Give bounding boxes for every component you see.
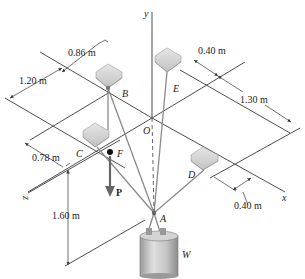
cable-AC: [97, 147, 154, 213]
point-C-label: C: [76, 148, 83, 159]
point-A-label: A: [159, 213, 167, 224]
point-B-label: B: [122, 88, 128, 99]
cable-AB: [108, 88, 154, 213]
point-F-dot: [107, 149, 113, 155]
floor-reference-line: [65, 220, 145, 266]
cable-AE: [154, 72, 167, 213]
line-C-parallel-z: [28, 140, 120, 193]
statics-diagram: y x z B E O C F P D A W 0.86 m 1.20 m 0.…: [0, 0, 305, 279]
dim-1-60-label: 1.60 m: [52, 210, 80, 221]
cable-AD: [154, 170, 204, 213]
neg-x-line: [40, 52, 152, 118]
bracket-E: [155, 48, 181, 72]
weight-W-label: W: [182, 249, 192, 260]
bracket-C: [83, 123, 109, 147]
dim-1-30-label: 1.30 m: [240, 94, 268, 105]
y-axis-label: y: [143, 8, 149, 19]
line-through-E-parallel-x: [180, 70, 290, 133]
point-O-label: O: [143, 125, 150, 136]
labels: y x z B E O C F P D A W 0.86 m 1.20 m 0.…: [19, 8, 287, 260]
force-P: [105, 149, 115, 197]
dim-0-78-label: 0.78 m: [32, 152, 60, 163]
force-P-label: P: [116, 187, 122, 198]
dim-0-40-top-label: 0.40 m: [198, 45, 226, 56]
force-arrow-icon: [105, 186, 115, 197]
point-E-label: E: [172, 83, 179, 94]
dim-1-20-label: 1.20 m: [19, 75, 47, 86]
x-axis-line: [152, 118, 285, 192]
dashed-vertical-O-A: [152, 118, 154, 213]
dim-0-86-label: 0.86 m: [68, 47, 96, 58]
point-D-label: D: [187, 169, 196, 180]
x-axis-label: x: [281, 192, 287, 203]
bracket-B: [96, 64, 122, 90]
line-D-parallel-z: [210, 128, 300, 178]
point-F-label: F: [116, 148, 124, 159]
point-A: [152, 211, 156, 215]
z-axis-label: z: [21, 195, 32, 200]
dim-0-40-right-label: 0.40 m: [234, 200, 262, 211]
bracket-D: [191, 147, 218, 170]
bucket-W: [140, 228, 178, 279]
